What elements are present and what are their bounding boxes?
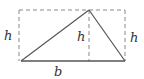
triangle-right-side bbox=[89, 10, 125, 61]
right-height-label: h bbox=[130, 30, 138, 45]
center-height-label: h bbox=[77, 29, 85, 44]
triangle-rectangle-diagram: h h h b bbox=[0, 0, 144, 79]
base-label: b bbox=[54, 64, 62, 79]
left-height-label: h bbox=[4, 28, 12, 43]
